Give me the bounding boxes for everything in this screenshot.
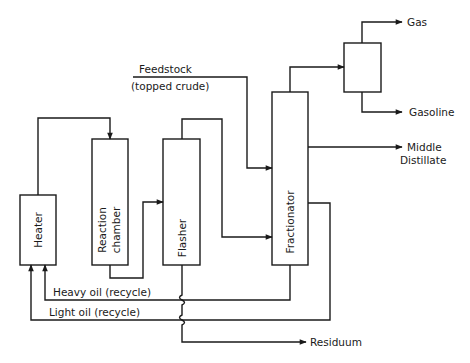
heater-unit: Heater bbox=[20, 195, 56, 265]
flasher-unit: Flasher bbox=[163, 139, 200, 265]
middle-distillate-label-line2: Distillate bbox=[400, 154, 446, 166]
residuum-line bbox=[180, 265, 307, 342]
gas-line bbox=[362, 22, 402, 43]
gasoline-stream: Gasoline bbox=[362, 92, 454, 118]
feedstock-label: Feedstock bbox=[139, 63, 193, 75]
middle-distillate-stream: Middle Distillate bbox=[308, 141, 446, 166]
reaction-chamber-unit: Reaction chamber bbox=[92, 139, 128, 265]
feedstock-sublabel: (topped crude) bbox=[131, 80, 209, 92]
middle-distillate-label-line1: Middle bbox=[407, 141, 442, 153]
process-flow-diagram: Heater Reaction chamber Flasher Fraction… bbox=[0, 0, 470, 363]
residuum-stream: Residuum bbox=[180, 265, 362, 348]
gasoline-label: Gasoline bbox=[409, 106, 454, 118]
reaction-chamber-label-line2: chamber bbox=[110, 206, 122, 253]
heavy-oil-label: Heavy oil (recycle) bbox=[53, 286, 151, 298]
gasoline-line bbox=[362, 92, 402, 112]
feedstock-stream: Feedstock (topped crude) bbox=[131, 63, 272, 168]
residuum-label: Residuum bbox=[310, 336, 362, 348]
heater-label: Heater bbox=[32, 211, 44, 247]
gas-stream: Gas bbox=[362, 16, 427, 43]
separator-box bbox=[344, 43, 381, 92]
reaction-chamber-label-line1: Reaction bbox=[96, 207, 108, 253]
fractionator-overhead-line bbox=[290, 67, 344, 92]
fractionator-unit: Fractionator bbox=[272, 92, 308, 265]
gas-label: Gas bbox=[407, 16, 427, 28]
flasher-label: Flasher bbox=[176, 218, 188, 257]
light-oil-label: Light oil (recycle) bbox=[49, 306, 140, 318]
separator-unit bbox=[344, 43, 381, 92]
fractionator-label: Fractionator bbox=[284, 190, 296, 254]
heavy-oil-recycle-stream: Heavy oil (recycle) bbox=[45, 265, 290, 300]
